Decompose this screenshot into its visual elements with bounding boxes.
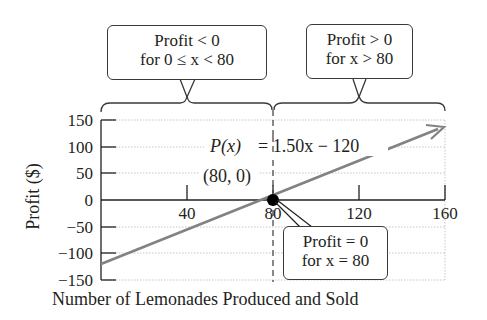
callout-gain: Profit > 0 for x > 80 [306, 24, 413, 79]
callout-loss-line2: for 0 ≤ x < 80 [114, 50, 260, 69]
x-tick-labels: 40 80 120 160 [179, 204, 458, 223]
callout-pointer-loss [180, 79, 195, 97]
y-tick-label: 100 [68, 138, 94, 157]
y-tick-label: 150 [68, 111, 94, 130]
equation-label-rhs: = 1.50x − 120 [258, 136, 359, 156]
brace-gain-region [274, 96, 445, 111]
y-tick-label: −50 [66, 218, 93, 237]
y-tick-label: −100 [58, 244, 93, 263]
x-tick-label: 160 [432, 204, 458, 223]
equation-label-lhs: P(x) [209, 136, 241, 157]
point-label: (80, 0) [203, 166, 251, 187]
y-tick-labels: 150 100 50 0 −50 −100 −150 [58, 111, 93, 290]
x-tick-label: 120 [346, 204, 372, 223]
callout-loss: Profit < 0 for 0 ≤ x < 80 [107, 25, 267, 80]
y-axis-label: Profit ($) [23, 152, 44, 242]
callout-breakeven-line1: Profit = 0 [290, 232, 381, 251]
callout-gain-line2: for x > 80 [313, 49, 406, 68]
y-tick-label: 0 [85, 191, 94, 210]
callout-breakeven: Profit = 0 for x = 80 [283, 226, 388, 280]
y-tick-label: 50 [76, 164, 93, 183]
callout-breakeven-line2: for x = 80 [290, 251, 381, 270]
x-axis-label: Number of Lemonades Produced and Sold [52, 289, 358, 310]
callout-gain-line1: Profit > 0 [313, 30, 406, 49]
y-tick-label: −150 [58, 271, 93, 290]
callout-loss-line1: Profit < 0 [114, 31, 260, 50]
brace-loss-region [101, 96, 272, 112]
callout-pointer-gain [353, 79, 366, 97]
x-tick-label: 40 [179, 204, 196, 223]
